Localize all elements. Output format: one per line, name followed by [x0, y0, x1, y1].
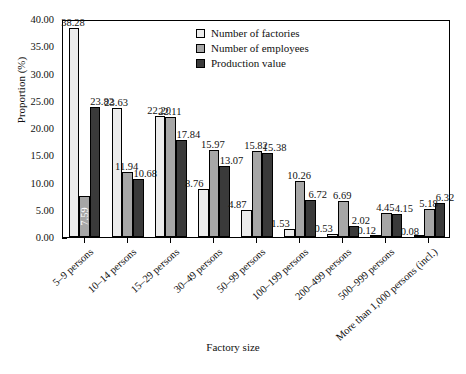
legend-swatch-icon-production: [196, 59, 205, 68]
y-axis-tick-label: 35.00: [12, 42, 54, 52]
bar-chart: Proportion (%) 0.005.0010.0015.0020.0025…: [0, 0, 466, 374]
x-axis-tick-mark: [170, 238, 171, 243]
legend-swatch-icon-factories: [196, 29, 205, 38]
bar-value-label: 7.59: [78, 199, 89, 233]
bar-value-label: 10.26: [284, 170, 314, 181]
bar-value-label: 22.11: [155, 106, 185, 117]
x-axis-tick-mark: [256, 238, 257, 243]
y-axis-tick-label: 25.00: [12, 97, 54, 107]
legend-swatch-icon-employees: [196, 44, 205, 53]
legend-label-production: Production value: [211, 56, 286, 70]
bar-value-label: 4.87: [222, 199, 252, 210]
x-axis-tick-mark: [342, 238, 343, 243]
x-axis-tick-mark: [213, 238, 214, 243]
bar: [133, 179, 144, 237]
y-axis-tick-label: 5.00: [12, 206, 54, 216]
x-axis-tick-mark: [428, 238, 429, 243]
bar-value-label: 15.97: [198, 139, 228, 150]
x-axis-tick-mark: [385, 238, 386, 243]
y-axis-tick-label: 10.00: [12, 179, 54, 189]
y-axis-tick-label: 30.00: [12, 70, 54, 80]
bar-value-label: 10.68: [130, 168, 160, 179]
legend-item-factories: Number of factories: [196, 26, 309, 40]
legend-item-production: Production value: [196, 56, 309, 70]
x-axis-title: Factory size: [0, 341, 466, 353]
bar-value-label: 38.28: [58, 17, 88, 28]
legend-item-employees: Number of employees: [196, 41, 309, 55]
bar-value-label: 6.69: [327, 190, 357, 201]
bar-value-label: 13.07: [216, 155, 246, 166]
legend-label-factories: Number of factories: [211, 26, 300, 40]
x-axis-tick-mark: [299, 238, 300, 243]
bar: [90, 107, 101, 237]
y-axis-tick-label: 15.00: [12, 151, 54, 161]
bar-value-label: 15.38: [260, 142, 290, 153]
y-axis-tick-mark: [62, 238, 67, 239]
chart-legend: Number of factories Number of employees …: [196, 26, 309, 71]
x-axis-tick-mark: [127, 238, 128, 243]
y-axis-tick-label: 40.00: [12, 15, 54, 25]
y-axis-tick-label: 0.00: [12, 233, 54, 243]
legend-label-employees: Number of employees: [211, 41, 309, 55]
x-axis-tick-mark: [84, 238, 85, 243]
y-axis-tick-label: 20.00: [12, 124, 54, 134]
bar-value-label: 23.63: [101, 97, 131, 108]
bar-value-label: 8.76: [179, 178, 209, 189]
